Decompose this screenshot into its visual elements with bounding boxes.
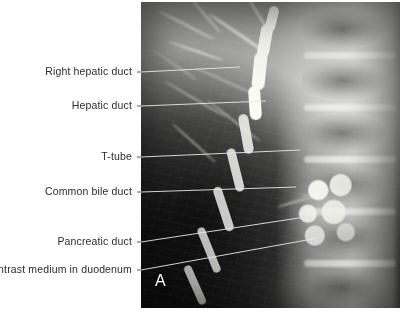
leader-line-inside	[141, 216, 312, 242]
leader-line-inside	[141, 101, 266, 106]
leader-line-inside	[141, 187, 296, 192]
leader-line-inside	[141, 238, 318, 270]
figure-panel: A Right hepatic duct Hepatic duct T-tube…	[0, 0, 406, 313]
leader-line-inside	[141, 150, 300, 157]
annotation-label-hepatic-duct: Hepatic duct	[72, 99, 132, 111]
leader-line-inside	[141, 67, 240, 72]
annotation-label-pancreatic-duct: Pancreatic duct	[57, 235, 132, 247]
annotation-label-common-bile-duct: Common bile duct	[45, 185, 132, 197]
annotation-label-right-hepatic-duct: Right hepatic duct	[45, 65, 132, 77]
annotation-label-t-tube: T-tube	[101, 150, 132, 162]
annotation-label-contrast-medium-in-duodenum: Contrast medium in duodenum	[0, 263, 132, 275]
